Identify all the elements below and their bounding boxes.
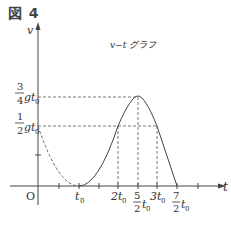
svg-text:2: 2 <box>134 203 140 214</box>
x-label-3t0: 3t 0 <box>150 190 165 205</box>
x-label-t0: t 0 <box>75 190 84 205</box>
svg-text:1: 1 <box>17 111 23 122</box>
svg-text:2: 2 <box>17 125 23 136</box>
svg-text:0: 0 <box>161 197 165 205</box>
graph-title: v−t グラフ <box>110 40 157 50</box>
svg-text:0: 0 <box>122 197 126 205</box>
y-axis-arrow-icon <box>36 22 41 30</box>
svg-text:4: 4 <box>17 95 23 106</box>
t-axis-label: t <box>223 180 228 194</box>
svg-text:0: 0 <box>185 205 189 213</box>
vt-graph: v t O v−t グラフ 3 4 gt 0 1 2 gt 0 t 0 2t 0… <box>0 0 231 226</box>
svg-text:5: 5 <box>134 190 140 201</box>
dashed-curve <box>38 126 79 186</box>
svg-text:7: 7 <box>173 190 179 201</box>
svg-text:3: 3 <box>17 81 23 92</box>
origin-label: O <box>26 190 35 203</box>
solid-curve <box>79 96 177 186</box>
x-label-7-2t0: 7 2 t 0 <box>172 190 189 214</box>
svg-text:0: 0 <box>146 205 150 213</box>
svg-text:0: 0 <box>80 197 84 205</box>
y-label-half: 1 2 gt 0 <box>15 111 39 136</box>
x-label-5-2t0: 5 2 t 0 <box>133 190 150 214</box>
x-label-2t0: 2t 0 <box>110 190 126 205</box>
svg-text:0: 0 <box>35 98 39 106</box>
svg-text:2: 2 <box>173 203 179 214</box>
y-axis-label: v <box>27 24 34 37</box>
y-label-three-quarters: 3 4 gt 0 <box>15 81 39 106</box>
svg-text:0: 0 <box>35 128 39 136</box>
